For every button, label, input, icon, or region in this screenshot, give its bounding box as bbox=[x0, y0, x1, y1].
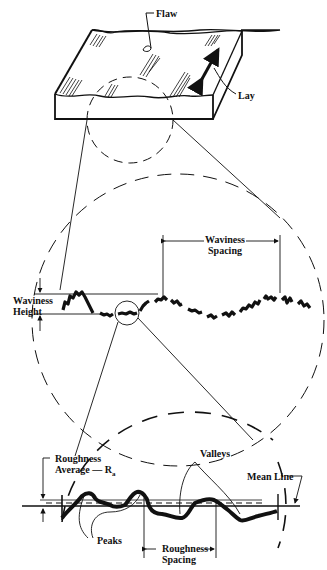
roughness-average-line1: Roughness bbox=[55, 453, 116, 464]
flaw-label: Flaw bbox=[156, 8, 177, 19]
waviness-height-line1: Waviness bbox=[13, 295, 53, 306]
peaks-label: Peaks bbox=[97, 535, 122, 546]
lay-label: Lay bbox=[238, 90, 255, 101]
waviness-spacing-label: Waviness Spacing bbox=[204, 234, 246, 256]
magnify-circle-waviness bbox=[32, 174, 324, 466]
roughness-spacing-line1: Roughness bbox=[162, 543, 208, 554]
magnify-circle-block bbox=[87, 77, 173, 163]
roughness-average-label: Roughness Average — Ra bbox=[55, 453, 116, 480]
waviness-spacing-line1: Waviness bbox=[204, 234, 246, 245]
specimen-block bbox=[55, 13, 280, 119]
roughness-average-line2: Average — Ra bbox=[55, 464, 116, 480]
roughness-spacing-line2: Spacing bbox=[162, 554, 208, 565]
projection-lines-2 bbox=[75, 318, 253, 456]
waviness-height-line2: Height bbox=[13, 306, 53, 317]
waviness-profile bbox=[63, 292, 310, 318]
surface-texture-diagram bbox=[0, 0, 327, 570]
valleys-label: Valleys bbox=[200, 448, 230, 459]
mean-line-label: Mean Line bbox=[247, 471, 293, 482]
ra-subscript: a bbox=[112, 470, 116, 478]
roughness-spacing-label: Roughness Spacing bbox=[162, 543, 208, 565]
projection-lines-1 bbox=[60, 120, 280, 290]
waviness-height-label: Waviness Height bbox=[13, 295, 53, 317]
waviness-spacing-line2: Spacing bbox=[204, 245, 246, 256]
